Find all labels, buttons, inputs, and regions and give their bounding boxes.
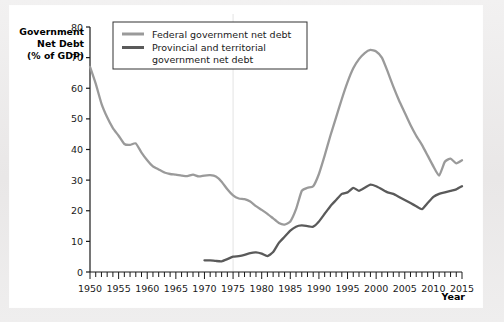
- y-tick-label: 20: [71, 205, 83, 216]
- x-axis: 1950195519601965197019751980198519901995…: [78, 272, 474, 294]
- chart-plot-area: 01020304050607080 1950195519601965197019…: [10, 6, 482, 307]
- legend-label-provincial-1: Provincial and territorial: [152, 42, 266, 53]
- line-chart: 01020304050607080 1950195519601965197019…: [10, 6, 482, 307]
- legend-label-federal: Federal government net debt: [152, 29, 292, 40]
- series-line-federal: [90, 50, 462, 225]
- chart-card: 01020304050607080 1950195519601965197019…: [10, 6, 482, 307]
- x-tick-label: 1975: [221, 283, 245, 294]
- x-tick-label: 2005: [393, 283, 417, 294]
- x-tick-label: 1950: [78, 283, 102, 294]
- y-tick-label: 40: [71, 144, 83, 155]
- x-tick-label: 1980: [250, 283, 274, 294]
- x-axis-title: Year: [440, 291, 465, 302]
- x-tick-label: 1990: [307, 283, 331, 294]
- x-tick-label: 1995: [335, 283, 359, 294]
- figure-page: 01020304050607080 1950195519601965197019…: [0, 0, 504, 322]
- y-axis-title-line3: (% of GDP): [27, 50, 84, 61]
- x-tick-label: 1970: [192, 283, 216, 294]
- x-tick-label: 1985: [278, 283, 302, 294]
- chart-legend: Federal government net debt Provincial a…: [113, 22, 307, 69]
- y-tick-label: 60: [71, 83, 83, 94]
- y-axis-title-line2: Net Debt: [37, 38, 84, 49]
- x-tick-label: 1955: [107, 283, 131, 294]
- y-tick-label: 50: [71, 113, 83, 124]
- y-tick-label: 30: [71, 175, 83, 186]
- y-tick-label: 0: [77, 267, 83, 278]
- x-tick-label: 1965: [164, 283, 188, 294]
- y-tick-label: 10: [71, 236, 83, 247]
- x-tick-label: 1960: [135, 283, 159, 294]
- legend-label-provincial-2: government net debt: [152, 54, 253, 65]
- y-axis-title-line1: Government: [19, 26, 84, 37]
- x-tick-label: 2000: [364, 283, 388, 294]
- series-line-provincial: [204, 185, 462, 262]
